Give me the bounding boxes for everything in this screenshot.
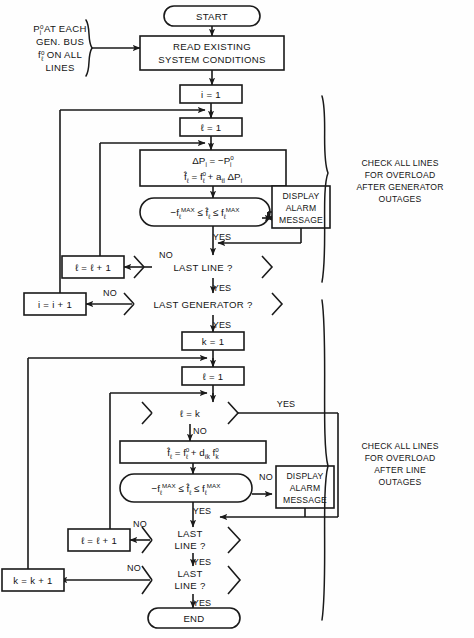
decision-overload-generator: −fℓMAX ≤ f̂ℓ ≤ fℓMAX xyxy=(140,198,270,226)
input-line4: LINES xyxy=(45,62,74,73)
fg-l2-b: = f xyxy=(189,171,203,182)
brace-line-section: CHECK ALL LINES FOR OVERLOAD AFTER LINE … xyxy=(322,300,439,620)
end-terminal: END xyxy=(148,608,240,628)
decision-last-line-2: LAST LINE ? xyxy=(142,527,240,553)
fl-c: + d xyxy=(188,447,205,458)
svg-text:foℓ ON ALL: foℓ ON ALL xyxy=(38,49,82,63)
fg-l2-c: + a xyxy=(205,171,222,182)
last-line-2-l2: LINE ? xyxy=(174,540,205,551)
process-l-equals-1-top: ℓ = 1 xyxy=(180,118,242,136)
read-line1: READ EXISTING xyxy=(173,41,251,52)
l-equals-k-label: ℓ = k xyxy=(180,408,200,419)
dog-c-sub: ℓ xyxy=(224,213,226,220)
fl-b: = f xyxy=(172,447,186,458)
brace-top-l4: OUTAGES xyxy=(379,194,422,204)
l-inc-top-label: ℓ = ℓ + 1 xyxy=(75,262,111,273)
process-formula-generator: ΔPi = −Poi f̂ℓ = foℓ + aℓi ΔPi xyxy=(140,150,286,186)
svg-text:f̂ℓ = foℓ + aℓi ΔPi: f̂ℓ = foℓ + aℓi ΔPi xyxy=(183,170,242,183)
edge-no-3: NO xyxy=(103,288,117,298)
assign-k1-label: k = 1 xyxy=(202,336,225,347)
l-inc-bot-label: ℓ = ℓ + 1 xyxy=(81,535,117,546)
fg-l1-b: = −P xyxy=(207,155,231,166)
edge-yes-7: YES xyxy=(193,598,212,608)
dol-a-sub: ℓ xyxy=(160,489,162,496)
brace-top-l2: FOR OVERLOAD xyxy=(365,170,436,180)
last-line-3-l1: LAST xyxy=(177,568,202,579)
fg-l2-d: ΔP xyxy=(225,171,241,182)
brace-top-l3: AFTER GENERATOR xyxy=(356,182,443,192)
dog-c: ≤ f xyxy=(210,207,224,218)
fg-l2-sub4: i xyxy=(241,177,242,184)
assign-i1-label: i = 1 xyxy=(201,89,221,100)
flowchart-svg: Poi AT EACH GEN. BUS foℓ ON ALL LINES ST… xyxy=(0,0,474,638)
edge-no-5: NO xyxy=(259,472,273,482)
decision-l-equals-k: ℓ = k xyxy=(142,402,238,424)
alarm-top-l2: ALARM xyxy=(286,203,317,213)
dog-c-max: MAX xyxy=(226,206,240,213)
brace-top-l1: CHECK ALL LINES xyxy=(361,158,438,168)
process-i-equals-1: i = 1 xyxy=(180,85,242,103)
assign-l1-bot-label: ℓ = 1 xyxy=(203,371,224,382)
svg-text:Poi AT EACH: Poi AT EACH xyxy=(33,23,86,37)
brace-bot-l1: CHECK ALL LINES xyxy=(361,441,438,451)
fg-l1-a: ΔP xyxy=(192,155,206,166)
process-formula-line: f̂ℓ = foℓ + dℓk fok xyxy=(120,441,266,463)
assign-l1-top-label: ℓ = 1 xyxy=(201,122,222,133)
process-l-equals-1-bottom: ℓ = 1 xyxy=(182,367,244,385)
process-l-increment-bottom: ℓ = ℓ + 1 xyxy=(68,529,130,551)
edge-yes-6: YES xyxy=(193,557,212,567)
edge-no-4: NO xyxy=(193,426,207,436)
flowchart-canvas: Poi AT EACH GEN. BUS foℓ ON ALL LINES ST… xyxy=(0,0,474,638)
process-k-equals-1: k = 1 xyxy=(182,332,244,350)
brace-bot-l2: FOR OVERLOAD xyxy=(365,453,436,463)
end-label: END xyxy=(183,613,204,624)
alarm-bot-l1: DISPLAY xyxy=(286,471,323,481)
alarm-bot-l2: ALARM xyxy=(290,483,321,493)
edge-no-2: NO xyxy=(159,250,173,260)
input-line3-rest: ON ALL xyxy=(44,49,83,60)
brace-bot-l3: AFTER LINE xyxy=(374,465,426,475)
edge-yes-1: YES xyxy=(213,232,232,242)
input-brace xyxy=(86,20,140,76)
edge-yes-5: YES xyxy=(193,506,212,516)
edge-yes-3: YES xyxy=(213,320,232,330)
decision-last-line-3: LAST LINE ? xyxy=(142,566,240,594)
dol-c-sub: ℓ xyxy=(205,489,207,496)
dog-a-max: MAX xyxy=(181,206,195,213)
decision-last-line-1: LAST LINE ? xyxy=(134,256,272,278)
alarm-bot-l3: MESSAGE xyxy=(283,495,327,505)
process-i-increment: i = i + 1 xyxy=(24,293,86,315)
input-annotation-text: Poi AT EACH GEN. BUS foℓ ON ALL LINES xyxy=(33,23,86,73)
last-generator-label: LAST GENERATOR ? xyxy=(153,299,252,310)
alarm-top-l1: DISPLAY xyxy=(282,191,319,201)
alarm-box-top: DISPLAY ALARM MESSAGE xyxy=(272,186,330,228)
edge-yes-4: YES xyxy=(277,399,296,409)
input-line1-rest: AT EACH xyxy=(41,23,86,34)
process-read-existing: READ EXISTING SYSTEM CONDITIONS xyxy=(140,36,284,70)
start-terminal: START xyxy=(164,6,260,26)
last-line-1-label: LAST LINE ? xyxy=(173,262,232,273)
svg-text:f̂ℓ = foℓ + dℓk fok: f̂ℓ = foℓ + dℓk fok xyxy=(167,446,220,459)
process-k-increment: k = k + 1 xyxy=(2,569,64,591)
decision-overload-line: −fℓMAX ≤ f̂ℓ ≤ fℓMAX xyxy=(120,474,252,502)
brace-bot-l4: OUTAGES xyxy=(379,477,422,487)
edge-no-6: NO xyxy=(133,519,147,529)
dol-b: ≤ f̂ xyxy=(176,483,190,494)
i-inc-label: i = i + 1 xyxy=(38,299,72,310)
k-inc-label: k = k + 1 xyxy=(13,575,53,586)
dol-a-max: MAX xyxy=(162,482,176,489)
alarm-top-l3: MESSAGE xyxy=(279,215,323,225)
last-line-3-l2: LINE ? xyxy=(174,580,205,591)
dog-a: −f xyxy=(170,207,179,218)
dol-a: −f xyxy=(151,483,160,494)
process-l-increment-top: ℓ = ℓ + 1 xyxy=(62,256,124,278)
fg-l1-sub2: i xyxy=(230,161,231,168)
edge-yes-2: YES xyxy=(213,283,232,293)
dog-b: ≤ f̂ xyxy=(195,207,209,218)
start-label: START xyxy=(196,11,228,22)
input-line2: GEN. BUS xyxy=(36,36,84,47)
decision-last-generator: LAST GENERATOR ? xyxy=(124,293,282,315)
edge-no-7: NO xyxy=(127,563,141,573)
read-line2: SYSTEM CONDITIONS xyxy=(158,54,265,65)
brace-generator-section: CHECK ALL LINES FOR OVERLOAD AFTER GENER… xyxy=(322,96,444,282)
